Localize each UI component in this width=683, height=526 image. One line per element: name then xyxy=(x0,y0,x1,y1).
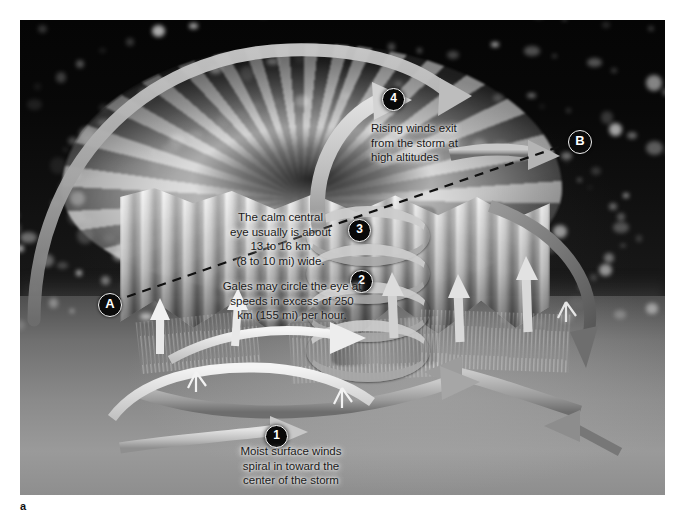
hurricane-illustration: A B 1 Moist surface winds spiral in towa… xyxy=(20,20,665,495)
callout-text-4: Rising winds exit from the storm at high… xyxy=(371,121,497,165)
section-endpoint-b[interactable]: B xyxy=(568,130,592,154)
callout-text-1: Moist surface winds spiral in toward the… xyxy=(216,444,366,488)
panel-letter: a xyxy=(20,500,26,512)
callout-text-2: Gales may circle the eye at speeds in ex… xyxy=(198,279,386,323)
step-marker-4[interactable]: 4 xyxy=(382,88,405,111)
callout-text-3: The calm central eye usually is about 13… xyxy=(209,210,352,268)
figure-root: A B 1 Moist surface winds spiral in towa… xyxy=(0,0,683,526)
section-endpoint-a[interactable]: A xyxy=(98,293,122,317)
